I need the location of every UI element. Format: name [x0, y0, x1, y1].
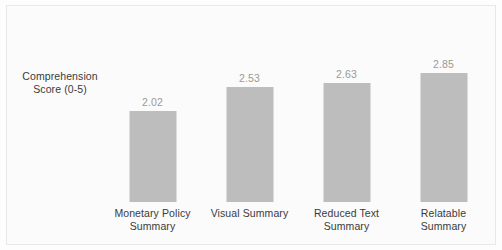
- bar-value-label-visual-summary: 2.53: [239, 72, 260, 84]
- category-label-line: Visual Summary: [201, 207, 298, 220]
- category-label-line: Reduced Text: [298, 207, 395, 220]
- category-label-line: Monetary Policy: [104, 207, 201, 220]
- bar-column-relatable-summary[interactable]: 2.85: [420, 73, 467, 202]
- bar-column-reduced-text-summary[interactable]: 2.63: [323, 83, 370, 202]
- category-label-reduced-text-summary: Reduced Text Summary: [298, 207, 395, 233]
- bar-column-monetary-policy-summary[interactable]: 2.02: [129, 111, 176, 203]
- bar-value-label-reduced-text-summary: 2.63: [336, 68, 357, 80]
- x-axis-baseline: [104, 202, 492, 203]
- y-axis-title-line-1: Comprehension: [8, 70, 112, 83]
- bar-relatable-summary[interactable]: 2.85: [420, 73, 467, 202]
- category-label-line: Relatable: [395, 207, 492, 220]
- chart-figure: Comprehension Score (0-5) 2.02 2.53 2.63: [0, 0, 502, 250]
- plot-area: 2.02 2.53 2.63 2.85: [104, 14, 492, 202]
- y-axis-title-line-2: Score (0-5): [8, 83, 112, 96]
- bar-value-label-relatable-summary: 2.85: [433, 58, 454, 70]
- category-label-line: Summary: [395, 220, 492, 233]
- bar-column-visual-summary[interactable]: 2.53: [226, 87, 273, 202]
- category-label-line: Summary: [104, 220, 201, 233]
- bar-slot-visual-summary: 2.53: [201, 14, 298, 202]
- bar-monetary-policy-summary[interactable]: 2.02: [129, 111, 176, 203]
- x-axis-category-labels: Monetary Policy Summary Visual Summary R…: [104, 207, 492, 247]
- bar-visual-summary[interactable]: 2.53: [226, 87, 273, 202]
- bar-slot-reduced-text-summary: 2.63: [298, 14, 395, 202]
- category-label-line: Summary: [298, 220, 395, 233]
- bar-slot-relatable-summary: 2.85: [395, 14, 492, 202]
- category-label-visual-summary: Visual Summary: [201, 207, 298, 220]
- bar-reduced-text-summary[interactable]: 2.63: [323, 83, 370, 202]
- category-label-monetary-policy-summary: Monetary Policy Summary: [104, 207, 201, 233]
- category-label-relatable-summary: Relatable Summary: [395, 207, 492, 233]
- y-axis-title: Comprehension Score (0-5): [8, 70, 112, 96]
- bar-value-label-monetary-policy-summary: 2.02: [142, 96, 163, 108]
- bar-slot-monetary-policy-summary: 2.02: [104, 14, 201, 202]
